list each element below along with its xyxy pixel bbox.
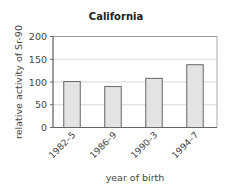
x-tick-label: 1982–5: [47, 130, 78, 161]
y-tick-label: 0: [41, 122, 47, 133]
x-tick-label: 1986–9: [88, 130, 119, 161]
y-tick-label: 100: [29, 77, 47, 88]
x-axis-ticks: 1982–51986–91990–31994–7: [47, 130, 201, 161]
x-axis-title: year of birth: [106, 172, 165, 183]
y-axis-title: relative activity of Sr-90: [13, 25, 24, 139]
bar-chart: 050100150200 1982–51986–91990–31994–7 re…: [0, 0, 232, 190]
bar: [105, 87, 122, 128]
x-tick-label: 1990–3: [129, 130, 160, 161]
y-tick-label: 200: [29, 31, 47, 42]
x-tick-label: 1994–7: [170, 130, 201, 161]
y-tick-label: 150: [29, 54, 47, 65]
bar: [146, 78, 163, 127]
bar: [64, 82, 81, 128]
bars: [64, 65, 204, 128]
y-tick-label: 50: [35, 99, 47, 110]
y-axis-ticks: 050100150200: [29, 31, 53, 133]
bar: [187, 65, 204, 128]
